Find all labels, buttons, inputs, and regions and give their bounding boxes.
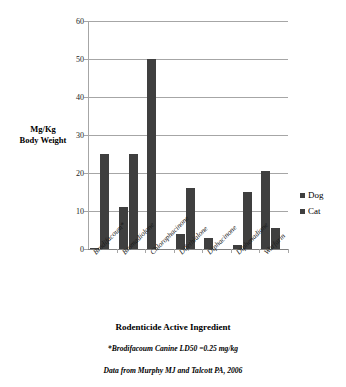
bar-group: [259, 21, 288, 249]
legend-label: Cat: [308, 206, 321, 216]
y-axis-tick-labels: 0102030405060: [58, 21, 84, 249]
chart-legend: DogCat: [300, 187, 344, 219]
legend-swatch-icon: [300, 209, 305, 214]
y-axis-tick-label: 60: [60, 17, 84, 26]
chart-footnote: *Brodifacoum Canine LD50 =0.25 mg/kg: [0, 344, 346, 353]
bar-group: [145, 21, 174, 249]
plot-area: [88, 21, 288, 249]
y-axis-tick-label: 30: [60, 131, 84, 140]
y-axis-tick-mark: [84, 211, 88, 212]
bar[interactable]: [261, 171, 270, 249]
bar-group: [117, 21, 146, 249]
x-axis-title: Rodenticide Active Ingredient: [0, 322, 346, 332]
y-axis-tick-mark: [84, 59, 88, 60]
legend-item[interactable]: Cat: [300, 203, 344, 219]
y-axis-tick-mark: [84, 249, 88, 250]
y-axis-tick-label: 20: [60, 169, 84, 178]
x-axis-category-labels: Brodifacoum*BromadioloneChlorophacinoneD…: [88, 250, 298, 312]
y-axis-tick-label: 0: [60, 245, 84, 254]
y-axis-tick-mark: [84, 135, 88, 136]
legend-label: Dog: [308, 190, 324, 200]
bar-group: [174, 21, 203, 249]
legend-item[interactable]: Dog: [300, 187, 344, 203]
legend-swatch-icon: [300, 193, 305, 198]
y-axis-tick-mark: [84, 21, 88, 22]
y-axis-tick-label: 50: [60, 55, 84, 64]
bar-group: [88, 21, 117, 249]
y-axis-tick-mark: [84, 97, 88, 98]
y-axis-tick-mark: [84, 173, 88, 174]
bar-group: [231, 21, 260, 249]
y-axis-tick-label: 10: [60, 207, 84, 216]
y-axis-tick-label: 40: [60, 93, 84, 102]
bar-group: [202, 21, 231, 249]
bar-chart-figure: Mg/Kg Body Weight 0102030405060 Brodifac…: [0, 0, 346, 387]
chart-source-note: Data from Murphy MJ and Talcott PA, 2006: [0, 366, 346, 375]
